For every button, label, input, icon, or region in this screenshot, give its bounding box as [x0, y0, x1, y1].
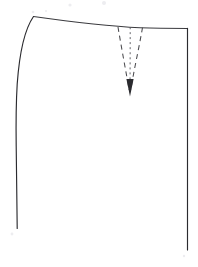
side-seam-line [16, 17, 33, 229]
scan-speck [183, 255, 185, 257]
pattern-drawing-canvas [0, 0, 198, 267]
scan-speck [11, 233, 14, 236]
scan-speck [45, 10, 47, 12]
scan-speck [32, 11, 35, 14]
scan-speck [102, 1, 106, 5]
scan-speck [68, 3, 71, 6]
dart-direction-arrow-icon [126, 79, 133, 97]
pattern-figure [0, 0, 198, 267]
waistline-seam [34, 17, 188, 29]
